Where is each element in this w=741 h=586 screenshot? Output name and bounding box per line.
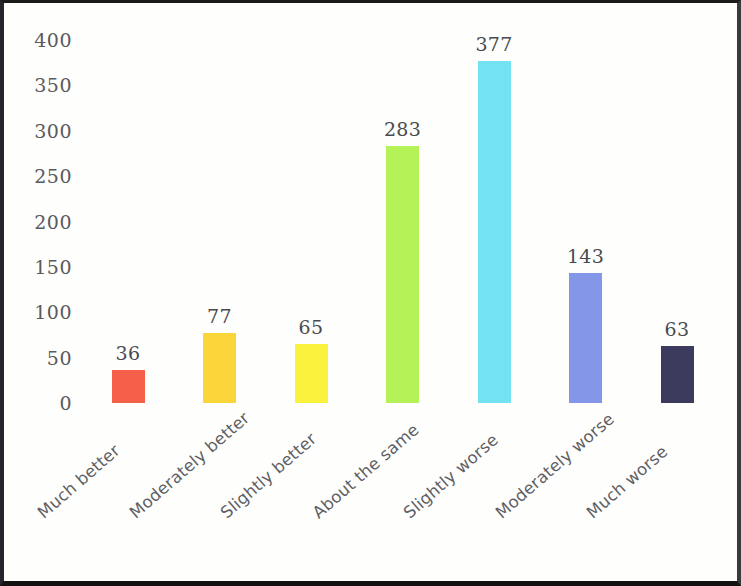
y-axis-tick-label: 300: [4, 120, 72, 142]
y-axis-tick-label: 250: [4, 165, 72, 187]
bar-value-label: 283: [363, 118, 443, 140]
bar-much-better[interactable]: [112, 370, 145, 403]
y-axis-tick-label: 0: [4, 392, 72, 414]
bar-value-label: 65: [271, 316, 351, 338]
bar-about-the-same[interactable]: [386, 146, 419, 403]
bar-value-label: 77: [180, 305, 260, 327]
bar-moderately-better[interactable]: [203, 333, 236, 403]
y-axis-tick-label: 400: [4, 29, 72, 51]
bar-value-label: 143: [546, 245, 626, 267]
x-axis-tick-label: Much better: [34, 441, 124, 522]
bar-slightly-better[interactable]: [295, 344, 328, 403]
y-axis-tick-label: 50: [4, 347, 72, 369]
bar-value-label: 63: [637, 318, 717, 340]
y-axis-tick-label: 100: [4, 301, 72, 323]
y-axis-tick-label: 350: [4, 74, 72, 96]
bar-value-label: 36: [88, 342, 168, 364]
bar-moderately-worse[interactable]: [569, 273, 602, 403]
bar-much-worse[interactable]: [661, 346, 694, 403]
x-axis-tick-label: Slightly better: [217, 429, 320, 522]
y-axis-tick-label: 150: [4, 256, 72, 278]
bar-slightly-worse[interactable]: [478, 61, 511, 403]
chart-container: 400350300250200150100500 367765283377143…: [0, 0, 741, 586]
x-axis-tick-label: Much worse: [583, 442, 671, 522]
bar-value-label: 377: [454, 33, 534, 55]
y-axis-tick-label: 200: [4, 211, 72, 233]
plot-area: 400350300250200150100500 367765283377143…: [4, 3, 737, 581]
x-axis-tick-label: Slightly worse: [400, 430, 502, 522]
